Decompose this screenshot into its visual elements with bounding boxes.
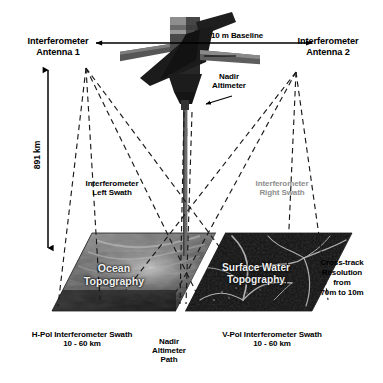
satellite-illustration [64, 12, 316, 138]
footnote-nadir-altimeter-path: Nadir Altimeter Path [140, 337, 198, 365]
footnote-v-pol-swath: V-Pol Interferometer Swath 10 - 60 km [198, 330, 346, 348]
label-altitude: 891 km [33, 125, 43, 185]
nadir-altimeter-pointer [206, 96, 232, 104]
surface-water-topography-caption: Surface Water Topography [196, 262, 316, 286]
label-interferometer-antenna-2: Interferometer Antenna 2 [276, 36, 380, 57]
satellite-mast-shade [183, 128, 185, 256]
label-cross-track-resolution: Cross-track Resolution from 70m to 10m [304, 258, 380, 298]
label-interferometer-right-swath: Interferometer Right Swath [232, 179, 332, 197]
label-interferometer-left-swath: Interferometer Left Swath [64, 179, 160, 197]
label-interferometer-antenna-1: Interferometer Antenna 1 [8, 36, 108, 57]
figure-canvas: Interferometer Antenna 1 Interferometer … [0, 0, 383, 383]
label-baseline: 10 m Baseline [196, 31, 278, 40]
footnote-h-pol-swath: H-Pol Interferometer Swath 10 - 60 km [12, 330, 152, 348]
label-nadir-altimeter: Nadir Altimeter [198, 72, 260, 90]
ocean-topography-caption: Ocean Topography [58, 262, 170, 287]
